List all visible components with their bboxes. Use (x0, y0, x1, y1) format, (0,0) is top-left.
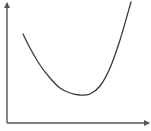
u-curve-chart (0, 0, 151, 131)
u-shaped-curve (23, 2, 131, 95)
